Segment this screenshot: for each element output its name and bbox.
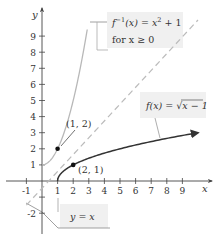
point-label-1-2: (1, 2) (66, 118, 92, 129)
finv-rest: (x) = x (125, 17, 158, 28)
x-tick-label: 3 (86, 186, 92, 196)
x-tick-label: 1 (55, 186, 61, 196)
x-tick-label: 6 (133, 186, 139, 196)
y-axis-label: y (31, 9, 38, 20)
data-point (71, 163, 76, 168)
y-tick-label: 6 (30, 80, 36, 90)
inverse-function-curve (42, 30, 87, 165)
point-leader-1-2 (61, 130, 75, 146)
x-tick-label: 5 (117, 186, 123, 196)
point-label-2-1: (2, 1) (78, 164, 104, 175)
finv-plus-one: + 1 (161, 17, 181, 28)
y-tick-label: 8 (30, 48, 36, 58)
f-label: f(x) = √x − 1 (145, 100, 208, 111)
y-tick-label: 2 (30, 144, 36, 154)
x-axis-label: x (202, 183, 208, 194)
finv-superscript: −1 (116, 16, 126, 24)
f-label-box (140, 92, 206, 138)
x-tick-label: -1 (22, 186, 31, 196)
y-tick-label: 5 (30, 96, 36, 106)
f-label-radicand: x − 1 (182, 100, 207, 111)
x-tick-label: 7 (148, 186, 154, 196)
svg-text:f(x) = √x − 1: f(x) = √x − 1 (145, 100, 208, 111)
identity-label-box (26, 198, 110, 228)
y-tick-label: -2 (27, 209, 36, 219)
y-tick-label: 1 (30, 160, 36, 170)
function-inverse-graph: -1123456789-2123456789 y x (1, 2) (2, 1)… (0, 0, 220, 242)
x-tick-label: 2 (70, 186, 76, 196)
f-label-prefix: f(x) = (145, 100, 176, 111)
identity-label: y = x (69, 211, 95, 222)
finv-condition: for x ≥ 0 (112, 34, 154, 45)
x-tick-label: 4 (102, 186, 108, 196)
y-tick-label: 3 (30, 128, 36, 138)
y-tick-label: 4 (30, 112, 36, 122)
y-tick-label: 9 (30, 32, 36, 42)
x-tick-label: 8 (164, 186, 170, 196)
data-point (55, 147, 60, 152)
y-tick-label: 7 (30, 64, 36, 74)
x-tick-label: 9 (180, 186, 186, 196)
